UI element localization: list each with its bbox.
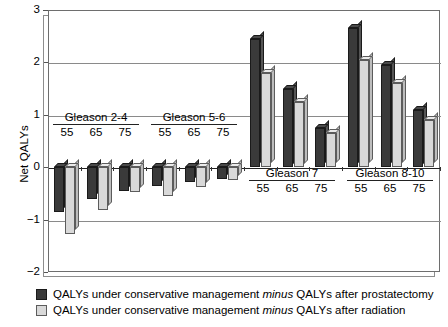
age-tick-label: 55 [154,126,176,138]
y-tick-label: −2 [18,266,40,276]
age-tick-label: 75 [310,182,332,194]
bar-front-face [119,167,129,191]
bar-prostatectomy [217,167,227,179]
bar-front-face [348,28,358,167]
bar-front-face [185,167,195,182]
bar-front-face [152,167,162,185]
bar-side-face [402,75,406,163]
bar-front-face [250,39,260,167]
x-tick-mark [211,167,212,171]
bar-radiation [424,120,434,167]
legend-label-prostatectomy: QALYs under conservative management minu… [53,286,434,302]
y-tick-label: 1 [18,109,40,119]
bar-front-face [424,120,434,167]
age-tick-label: 65 [379,182,401,194]
group-title: Gleason 2-4 [53,111,139,125]
x-tick-mark [146,167,147,171]
group-title: Gleason 7 [249,167,335,181]
group-title: Gleason 5-6 [151,111,237,125]
bar-front-face [413,110,423,168]
bar-radiation [130,167,140,192]
legend-swatch-light-icon [36,305,47,316]
bar-prostatectomy [348,28,358,167]
group-label-gleason-2-4: Gleason 2-4556575 [53,111,139,138]
group-label-gleason-8-10: Gleason 8-10556575 [347,167,433,194]
x-tick-mark [113,167,114,171]
y-tick-label: 0 [18,161,40,171]
bar-radiation [326,133,336,167]
bar-front-face [87,167,97,198]
bar-prostatectomy [54,167,64,212]
legend-item-radiation: QALYs under conservative management minu… [36,302,434,318]
legend-swatch-dark-icon [36,289,47,300]
bar-front-face [163,167,173,196]
age-tick-label: 55 [350,182,372,194]
group-label-gleason-7: Gleason 7556575 [249,167,335,194]
bar-front-face [217,167,227,179]
bar-prostatectomy [250,39,260,167]
net-qalys-bar-chart: Net QALYs 3210−1−2 Gleason 2-4556575Glea… [0,0,448,327]
x-tick-mark [440,167,441,171]
bar-front-face [392,83,402,167]
bar-front-face [65,167,75,234]
group-age-ticks: 556575 [347,181,433,194]
bar-front-face [315,128,325,167]
age-tick-label: 75 [212,126,234,138]
x-tick-mark [342,167,343,171]
bar-front-face [98,167,108,210]
bar-side-face [304,94,308,164]
bar-front-face [294,102,304,168]
x-tick-mark [179,167,180,171]
bar-front-face [130,167,140,192]
chart-legend: QALYs under conservative management minu… [36,286,434,318]
bar-radiation [359,60,369,167]
bar-front-face [283,89,293,168]
bars-layer [48,10,440,272]
bar-prostatectomy [152,167,162,185]
bar-radiation [392,83,402,167]
age-tick-label: 65 [183,126,205,138]
bar-prostatectomy [119,167,129,191]
group-age-ticks: 556575 [151,125,237,138]
bar-prostatectomy [315,128,325,167]
legend-item-prostatectomy: QALYs under conservative management minu… [36,286,434,302]
bar-side-face [434,112,438,163]
age-tick-label: 75 [408,182,430,194]
bar-front-face [381,65,391,167]
bar-radiation [294,102,304,168]
bar-prostatectomy [283,89,293,168]
group-title: Gleason 8-10 [347,167,433,181]
bar-front-face [196,167,206,187]
bar-prostatectomy [87,167,97,198]
age-tick-label: 65 [281,182,303,194]
bar-radiation [65,167,75,234]
legend-label-radiation: QALYs under conservative management minu… [53,302,405,318]
bar-side-face [238,159,242,176]
age-tick-label: 55 [56,126,78,138]
x-tick-mark [81,167,82,171]
bar-prostatectomy [381,65,391,167]
group-age-ticks: 556575 [53,125,139,138]
bar-radiation [228,167,238,180]
bar-side-face [75,159,79,230]
age-tick-label: 75 [114,126,136,138]
bar-front-face [261,73,271,167]
bar-radiation [163,167,173,196]
bar-prostatectomy [413,110,423,168]
bar-front-face [228,167,238,180]
bar-front-face [54,167,64,212]
y-tick-label: 3 [18,4,40,14]
bar-radiation [196,167,206,187]
x-tick-mark [244,167,245,171]
age-tick-label: 55 [252,182,274,194]
bar-radiation [261,73,271,167]
group-age-ticks: 556575 [249,181,335,194]
bar-radiation [98,167,108,210]
y-tick-label: −1 [18,214,40,224]
group-label-gleason-5-6: Gleason 5-6556575 [151,111,237,138]
age-tick-label: 65 [85,126,107,138]
bar-side-face [271,65,275,163]
bar-front-face [326,133,336,167]
bar-prostatectomy [185,167,195,182]
bar-side-face [369,52,373,163]
